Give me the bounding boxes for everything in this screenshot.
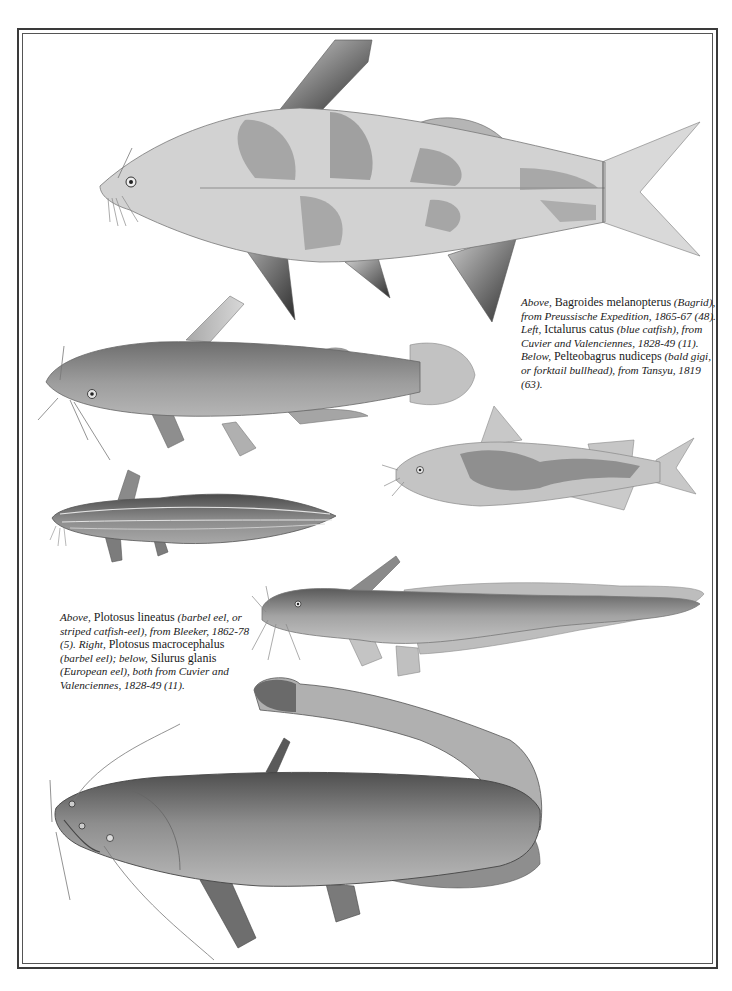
caption-top-species-1: Bagroides melanopterus (552, 295, 671, 309)
fish-bagroides-melanopterus (100, 40, 700, 322)
caption-top-species-3: Pelteobagrus nudiceps (551, 349, 662, 363)
caption-bottom-part-7: (European eel), both from Cuvier and Val… (60, 665, 229, 691)
fish-pelteobagrus-nudiceps (382, 406, 696, 510)
caption-bottom-part-5: (barbel eel); below, (60, 652, 148, 664)
fish-plate-illustrations (0, 0, 732, 991)
caption-top-part-1: Above, (521, 296, 552, 308)
caption-top: Above, Bagroides melanopterus (Bagrid), … (521, 296, 721, 391)
fish-plotosus-lineatus (50, 470, 336, 562)
fish-plotosus-macrocephalus (252, 556, 704, 676)
caption-bottom: Above, Plotosus lineatus (barbel eel, or… (60, 611, 260, 693)
caption-bottom-part-1: Above, (60, 611, 91, 623)
fish-ictalurus-catus (38, 296, 475, 460)
caption-bottom-species-3: Silurus glanis (148, 651, 217, 665)
caption-top-species-2: Ictalurus catus (541, 322, 614, 336)
caption-bottom-species-1: Plotosus lineatus (91, 610, 175, 624)
caption-bottom-species-2: Plotosus macrocephalus (106, 637, 225, 651)
fish-silurus-glanis (50, 678, 542, 960)
